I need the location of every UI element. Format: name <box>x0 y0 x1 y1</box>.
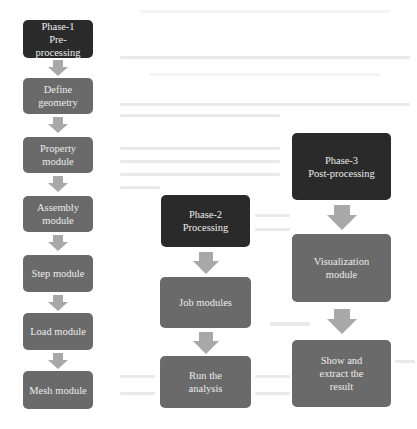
arrow-down-icon <box>48 60 68 76</box>
visualization-module-box: Visualization module <box>292 234 391 302</box>
bg-text-line <box>120 173 280 176</box>
run-analysis-box: Run the analysis <box>160 356 251 408</box>
mesh-module-box: Mesh module <box>23 371 93 409</box>
assembly-module-label: Assembly module <box>37 201 79 227</box>
load-module-label: Load module <box>30 325 86 338</box>
property-module-label: Property module <box>40 142 76 168</box>
step-module-box: Step module <box>23 255 93 292</box>
arrow-down-icon <box>48 176 68 192</box>
phase-1-label: Phase-1 Pre-processing <box>27 20 89 59</box>
phase-2-box: Phase-2 Processing <box>161 195 250 247</box>
show-extract-result-label: Show and extract the result <box>319 354 363 393</box>
bg-text-line <box>255 228 290 231</box>
phase-3-box: Phase-3 Post-processing <box>292 133 391 200</box>
bg-text-line <box>120 375 155 378</box>
property-module-box: Property module <box>23 137 93 173</box>
arrow-down-icon <box>48 235 68 251</box>
show-extract-result-box: Show and extract the result <box>292 340 391 407</box>
bg-text-line <box>395 360 415 363</box>
run-analysis-label: Run the analysis <box>189 369 223 395</box>
arrow-down-icon <box>327 205 357 230</box>
load-module-box: Load module <box>23 313 93 350</box>
bg-text-line <box>255 392 290 395</box>
bg-text-line <box>120 186 160 189</box>
arrow-down-icon <box>193 332 219 354</box>
bg-text-line <box>120 160 280 163</box>
bg-text-line <box>120 114 280 117</box>
phase-1-box: Phase-1 Pre-processing <box>23 20 93 58</box>
arrow-down-icon <box>48 295 68 311</box>
arrow-down-icon <box>327 309 357 334</box>
bg-text-line <box>120 392 155 395</box>
arrow-down-icon <box>48 117 68 133</box>
mesh-module-label: Mesh module <box>29 384 86 397</box>
bg-text-line <box>140 10 390 13</box>
visualization-module-label: Visualization module <box>314 255 369 281</box>
arrow-down-icon <box>48 353 68 369</box>
assembly-module-box: Assembly module <box>23 196 93 232</box>
bg-text-line <box>270 322 310 326</box>
define-geometry-label: Define geometry <box>38 83 78 109</box>
bg-text-line <box>120 56 410 59</box>
bg-text-line <box>150 73 380 76</box>
job-modules-label: Job modules <box>179 296 232 309</box>
bg-text-line <box>120 147 280 150</box>
arrow-down-icon <box>193 252 219 274</box>
step-module-label: Step module <box>32 267 85 280</box>
bg-text-line <box>120 103 410 106</box>
phase-3-label: Phase-3 Post-processing <box>308 154 375 180</box>
bg-text-line <box>255 214 290 217</box>
job-modules-box: Job modules <box>160 277 251 328</box>
phase-2-label: Phase-2 Processing <box>183 208 229 234</box>
define-geometry-box: Define geometry <box>23 78 93 114</box>
bg-text-line <box>255 375 290 378</box>
